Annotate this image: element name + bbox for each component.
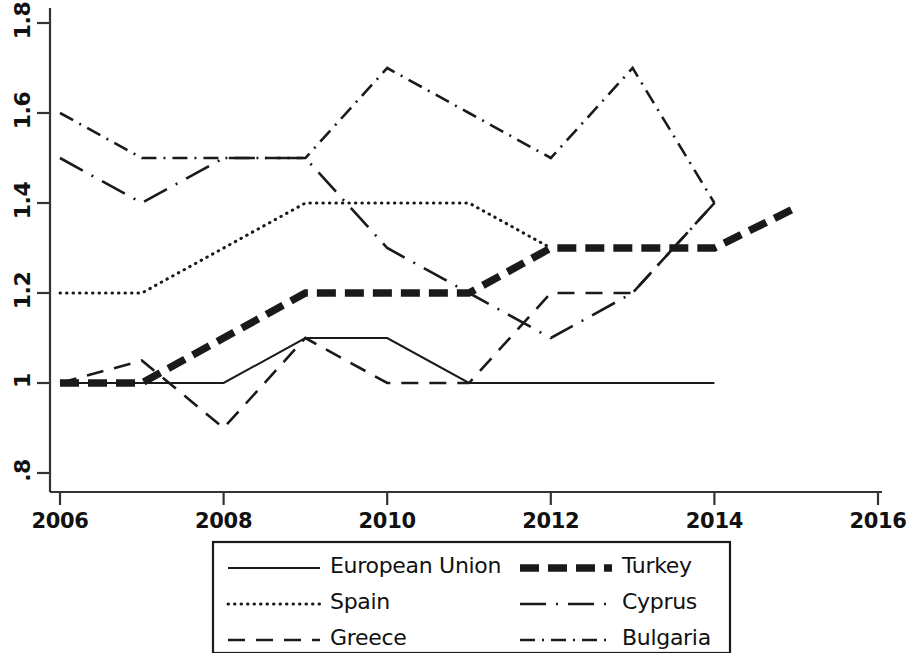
axes (37, 8, 882, 505)
y-tick-label: 1.8 (10, 0, 35, 49)
x-tick-label: 2008 (179, 509, 269, 533)
x-tick-label: 2010 (342, 509, 432, 533)
series-line-greece (60, 203, 714, 428)
legend-label-spain[interactable]: Spain (330, 589, 390, 614)
y-tick-label: 1.2 (10, 263, 35, 319)
legend-label-european-union[interactable]: European Union (330, 553, 501, 578)
x-tick-label: 2006 (15, 509, 105, 533)
legend-label-cyprus[interactable]: Cyprus (622, 589, 697, 614)
x-tick-label: 2014 (669, 509, 759, 533)
legend-label-bulgaria[interactable]: Bulgaria (622, 625, 711, 650)
data-series-layer (60, 68, 796, 428)
x-tick-label: 2016 (833, 509, 909, 533)
y-tick-label: 1.4 (10, 173, 35, 229)
legend-label-greece[interactable]: Greece (330, 625, 407, 650)
y-axis-ticks (37, 23, 50, 473)
y-tick-label: 1.6 (10, 83, 35, 139)
y-tick-label: 1 (10, 353, 35, 409)
legend-swatches (228, 568, 612, 640)
legend-label-turkey[interactable]: Turkey (622, 553, 692, 578)
series-line-bulgaria (60, 68, 714, 203)
y-tick-label: .8 (10, 443, 35, 499)
x-tick-label: 2012 (506, 509, 596, 533)
series-line-spain (60, 203, 551, 293)
chart-root: .811.21.41.61.8 200620082010201220142016… (0, 0, 909, 653)
x-axis-ticks (60, 492, 878, 505)
